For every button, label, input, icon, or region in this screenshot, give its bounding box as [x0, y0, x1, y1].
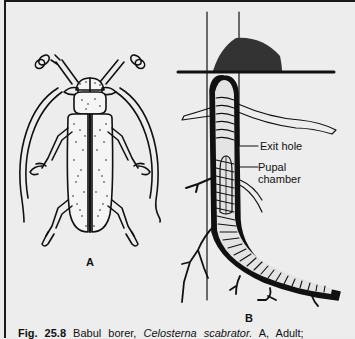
panel-label-a: A: [86, 256, 94, 268]
figure-caption: Fig. 25.8 Babul borer, Celosterna scabra…: [18, 327, 353, 339]
caption-rest: A, Adult;: [259, 327, 304, 339]
exit-hole-label: Exit hole: [260, 140, 302, 152]
pupal-chamber-label-line1: Pupal: [258, 161, 286, 173]
panel-label-b: B: [245, 312, 253, 324]
caption-scientific-name: Celosterna scabrator.: [143, 327, 252, 339]
figure-number: Fig. 25.8: [18, 327, 66, 339]
pupal-chamber-label-line2: chamber: [258, 173, 301, 185]
root-drawing: [178, 12, 340, 306]
caption-common-name: Babul borer,: [73, 327, 136, 339]
beetle-drawing: [20, 53, 160, 246]
